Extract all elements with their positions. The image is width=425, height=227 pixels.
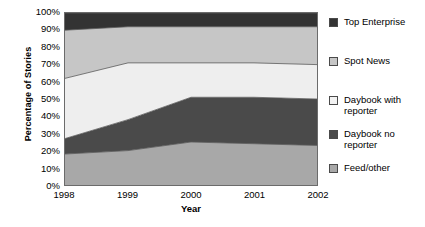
legend-swatch-icon (329, 57, 338, 66)
x-axis-tick-labels: 19981999200020012002 (64, 189, 318, 203)
legend-item-top-enterprise[interactable]: Top Enterprise (329, 17, 405, 28)
y-tick-label: 80% (14, 42, 60, 52)
x-tick-label: 1999 (100, 189, 156, 201)
y-tick-label: 20% (14, 146, 60, 156)
stacked-area-chart: Percentage of Stories 100%90%80%70%60%50… (0, 0, 425, 227)
legend-item-spot-news[interactable]: Spot News (329, 56, 390, 67)
legend-swatch-icon (329, 130, 338, 139)
area-series-group (65, 13, 317, 185)
legend-item-daybook-no-reporter[interactable]: Daybook no reporter (329, 129, 395, 150)
legend-item-label: Daybook no reporter (344, 129, 395, 150)
x-tick-label: 1998 (36, 189, 92, 201)
x-axis-title: Year (64, 203, 318, 214)
legend-item-label: Daybook with reporter (344, 95, 401, 116)
y-tick-label: 50% (14, 94, 60, 104)
legend-item-label: Top Enterprise (344, 17, 405, 28)
y-tick-label: 90% (14, 24, 60, 34)
y-axis-tick-labels: 100%90%80%70%60%50%40%30%20%10%0% (14, 12, 60, 186)
legend-item-feed-other[interactable]: Feed/other (329, 163, 390, 174)
legend-swatch-icon (329, 18, 338, 27)
y-tick-label: 70% (14, 59, 60, 69)
y-tick-label: 30% (14, 129, 60, 139)
y-tick-label: 10% (14, 164, 60, 174)
legend-swatch-icon (329, 164, 338, 173)
x-tick-label: 2000 (163, 189, 219, 201)
x-tick-label: 2001 (227, 189, 283, 201)
y-tick-label: 100% (14, 7, 60, 17)
legend-item-daybook-with-reporter[interactable]: Daybook with reporter (329, 95, 401, 116)
plot-area (64, 12, 318, 186)
y-tick-label: 40% (14, 111, 60, 121)
y-tick-label: 60% (14, 77, 60, 87)
legend-item-label: Feed/other (344, 163, 390, 174)
legend-item-label: Spot News (344, 56, 390, 67)
x-tick-label: 2002 (290, 189, 346, 201)
legend-swatch-icon (329, 96, 338, 105)
